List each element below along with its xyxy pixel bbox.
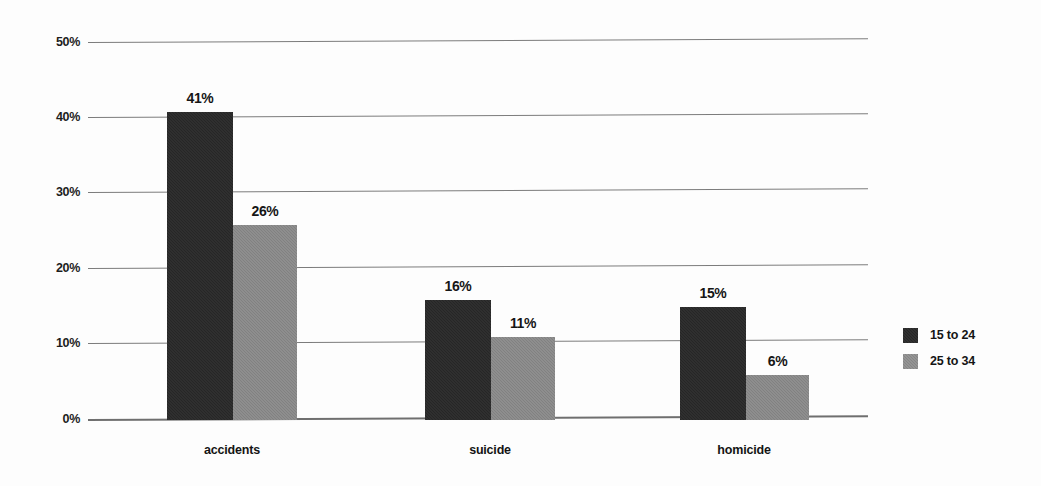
bar-label-homicide-15-to-24: 15% <box>680 285 746 301</box>
bar-label-accidents-15-to-24: 41% <box>167 90 233 106</box>
gridline-50 <box>88 38 868 43</box>
bar-accidents-25-to-34[interactable] <box>233 225 297 420</box>
plot-area: 41% 26% 16% 11% 15% 6% <box>88 40 868 420</box>
legend-label-15-to-24: 15 to 24 <box>930 328 975 342</box>
x-axis-label-suicide: suicide <box>420 443 560 457</box>
x-axis-label-homicide: homicide <box>674 443 814 457</box>
y-axis-tick-50: 50% <box>34 35 80 49</box>
bar-suicide-15-to-24[interactable] <box>425 300 491 420</box>
y-axis-tick-10: 10% <box>34 336 80 350</box>
legend-item-15-to-24[interactable]: 15 to 24 <box>903 322 1028 348</box>
bar-label-homicide-25-to-34: 6% <box>746 353 809 369</box>
bar-homicide-15-to-24[interactable] <box>680 307 746 420</box>
chart-legend: 15 to 24 25 to 34 <box>903 322 1028 374</box>
legend-item-25-to-34[interactable]: 25 to 34 <box>903 348 1028 374</box>
y-axis-tick-30: 30% <box>34 185 80 199</box>
bar-accidents-15-to-24[interactable] <box>167 112 233 420</box>
bar-suicide-25-to-34[interactable] <box>491 337 555 420</box>
y-axis-tick-labels: 50% 40% 30% 20% 10% 0% <box>20 40 80 420</box>
bar-homicide-25-to-34[interactable] <box>746 375 809 420</box>
legend-label-25-to-34: 25 to 34 <box>930 354 975 368</box>
bar-label-suicide-15-to-24: 16% <box>425 278 491 294</box>
y-axis-tick-40: 40% <box>34 110 80 124</box>
y-axis-tick-0: 0% <box>34 412 80 426</box>
bar-label-accidents-25-to-34: 26% <box>233 203 297 219</box>
bar-label-suicide-25-to-34: 11% <box>491 315 555 331</box>
x-axis-label-accidents: accidents <box>162 443 302 457</box>
legend-swatch-dark-icon <box>903 328 918 343</box>
bar-chart: 50% 40% 30% 20% 10% 0% 41% 26% 16% 11% 1… <box>0 0 1041 486</box>
y-axis-tick-20: 20% <box>34 261 80 275</box>
legend-swatch-gray-icon <box>903 354 918 369</box>
